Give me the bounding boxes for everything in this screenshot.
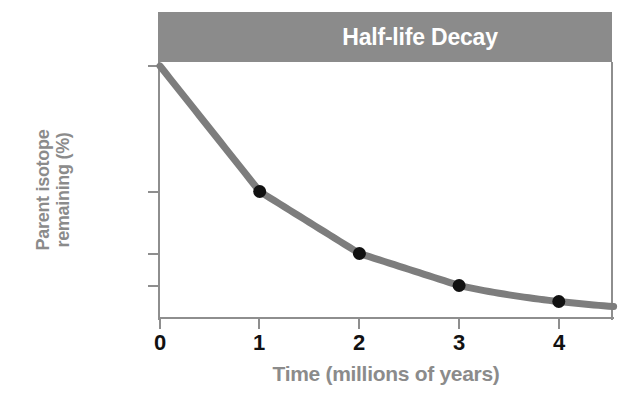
y-axis-title-line-1: Parent isotope [33, 130, 53, 251]
plot-right-border [611, 62, 613, 320]
half-life-decay-figure: Half-life Decay 100 50 25 12.5 0 1 2 3 4… [0, 0, 632, 412]
y-axis-title-line-2: remaining (%) [53, 130, 73, 251]
x-tick-label-3: 3 [439, 330, 479, 356]
x-tick-label-4: 4 [539, 330, 579, 356]
x-tick-label-1: 1 [239, 330, 279, 356]
x-axis-title: Time (millions of years) [160, 362, 612, 386]
y-tick-mark-50 [148, 191, 159, 193]
x-axis-line [158, 317, 614, 319]
x-tick-mark-0 [159, 318, 161, 329]
y-tick-mark-100 [148, 65, 159, 67]
chart-title: Half-life Decay [342, 24, 498, 51]
plot-area [160, 62, 612, 318]
chart-title-banner: Half-life Decay [158, 12, 612, 62]
x-tick-label-0: 0 [140, 330, 180, 356]
x-tick-mark-3 [458, 318, 460, 329]
x-tick-label-2: 2 [339, 330, 379, 356]
y-tick-mark-25 [148, 253, 159, 255]
x-tick-mark-1 [258, 318, 260, 329]
y-tick-mark-12-5 [148, 285, 159, 287]
x-tick-mark-2 [358, 318, 360, 329]
y-axis-title: Parent isotope remaining (%) [18, 62, 88, 318]
x-tick-mark-4 [558, 318, 560, 329]
